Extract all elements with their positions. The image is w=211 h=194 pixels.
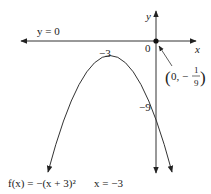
label-x-axis: x (194, 43, 200, 55)
label-point: ( 0, − 1 9 ) (165, 65, 206, 88)
label-function: f(x) = −(x + 3)² (8, 177, 76, 190)
label-origin: 0 (145, 42, 151, 54)
label-y-intercept: −9 (139, 101, 151, 113)
svg-text:0, −: 0, − (171, 70, 188, 82)
parabola-curve (48, 56, 172, 173)
label-axis-symmetry: x = −3 (94, 177, 123, 189)
label-vertex-x: −3 (99, 47, 111, 59)
svg-text:): ) (200, 68, 206, 87)
label-y-eq-0: y = 0 (37, 25, 60, 37)
graph: y = 0 x y −3 0 −9 ( 0, − 1 9 ) f(x) = −(… (0, 0, 211, 194)
pointer-arrow (159, 46, 172, 66)
point-dot (153, 38, 158, 43)
svg-text:1: 1 (194, 65, 199, 75)
svg-text:9: 9 (194, 78, 199, 88)
label-y-axis: y (145, 10, 151, 22)
